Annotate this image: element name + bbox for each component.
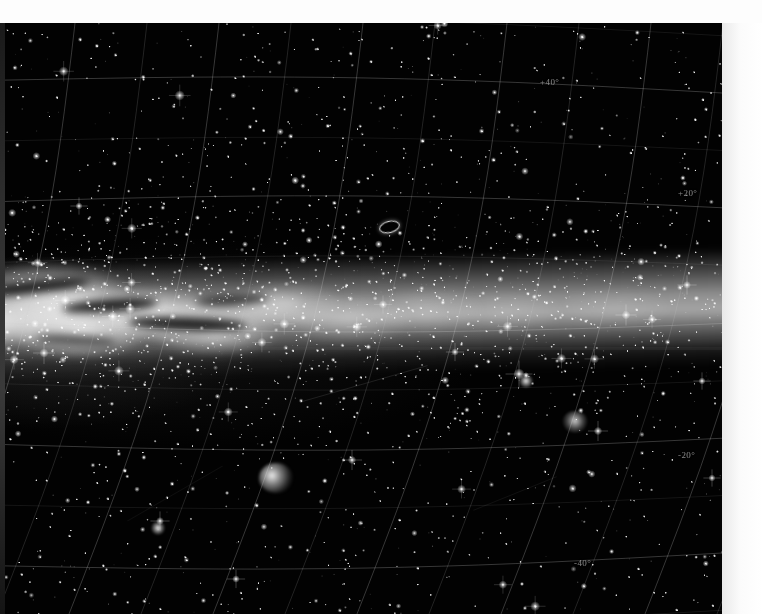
plate-left-edge-strip [0, 23, 5, 614]
plate-right-margin [722, 0, 762, 614]
dec-label-plus-20: +20° [678, 188, 697, 198]
sky-plate-viewer: +40°+20°-20°-40° [0, 0, 762, 614]
dec-label-plus-40: +40° [540, 77, 559, 87]
dec-label-minus-40: -40° [574, 558, 591, 568]
plate-top-margin [0, 0, 762, 23]
star-field [0, 23, 736, 614]
photographic-plate: +40°+20°-20°-40° [0, 23, 736, 614]
dec-label-minus-20: -20° [678, 450, 695, 460]
